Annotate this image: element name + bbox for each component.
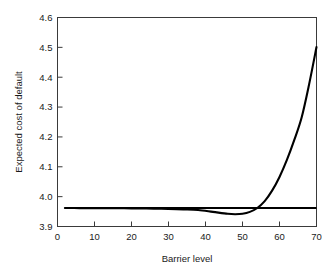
y-tick-label: 4.4 (39, 72, 52, 83)
y-tick-label: 4.2 (39, 131, 52, 142)
x-tick-label: 50 (237, 231, 248, 242)
x-tick-label: 70 (311, 231, 322, 242)
y-axis-title: Expected cost of default (13, 71, 24, 173)
x-tick-label: 0 (55, 231, 60, 242)
y-tick-label: 4.6 (39, 12, 52, 23)
y-tick-label: 4.0 (39, 191, 52, 202)
chart-figure: 3.94.04.14.24.34.44.54.6 010203040506070… (0, 0, 336, 270)
x-tick-label: 30 (163, 231, 174, 242)
y-tick-label: 4.3 (39, 101, 52, 112)
x-axis-title: Barrier level (162, 253, 213, 264)
chart-svg: 3.94.04.14.24.34.44.54.6 010203040506070… (0, 0, 336, 270)
y-tick-label: 4.1 (39, 161, 52, 172)
y-tick-label: 3.9 (39, 221, 52, 232)
x-tick-label: 10 (89, 231, 100, 242)
x-tick-label: 60 (274, 231, 285, 242)
x-tick-label: 40 (200, 231, 211, 242)
y-tick-label: 4.5 (39, 42, 52, 53)
x-tick-label: 20 (126, 231, 137, 242)
